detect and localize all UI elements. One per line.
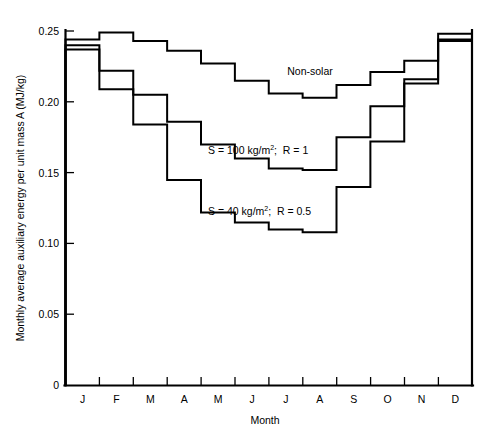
x-ticks-group <box>99 377 438 386</box>
y-tick-label-0: 0 <box>53 379 59 391</box>
x-tick-label-jan: J <box>80 393 85 405</box>
annotation-s40-tail: ; R = 0.5 <box>268 205 311 217</box>
annotation-s40-head: S = 40 kg/m <box>208 205 265 217</box>
x-tick-labels-group: J F M A M J J A S O N D <box>80 393 460 405</box>
y-axis-title: Monthly average auxiliary energy per uni… <box>14 75 26 342</box>
x-tick-label-oct: O <box>384 393 392 405</box>
y-tick-label-0.25: 0.25 <box>39 25 60 37</box>
y-tick-label-0.05: 0.05 <box>39 308 60 320</box>
y-tick-label-0.10: 0.10 <box>39 237 60 249</box>
x-tick-label-feb: F <box>113 393 119 405</box>
annotation-s100-tail: ; R = 1 <box>274 144 308 156</box>
chart-figure: 0.25 0.20 0.15 0.10 0.05 0 J F M A <box>0 0 499 437</box>
annotation-s40: S = 40 kg/m2; R = 0.5 <box>208 205 311 217</box>
y-tick-labels-group: 0.25 0.20 0.15 0.10 0.05 0 <box>39 25 60 391</box>
x-tick-label-jun: J <box>249 393 254 405</box>
annotation-s100: S = 100 kg/m2; R = 1 <box>208 144 308 156</box>
x-tick-label-aug: A <box>316 393 323 405</box>
x-tick-label-dec: D <box>452 393 460 405</box>
x-tick-label-nov: N <box>418 393 426 405</box>
x-tick-label-sep: S <box>350 393 357 405</box>
y-tick-label-0.20: 0.20 <box>39 96 60 108</box>
annotation-non-solar: Non-solar <box>287 65 333 77</box>
x-axis-title: Month <box>250 414 279 426</box>
chart-canvas: 0.25 0.20 0.15 0.10 0.05 0 J F M A <box>0 0 499 437</box>
x-tick-label-jul: J <box>283 393 288 405</box>
annotation-s100-head: S = 100 kg/m <box>208 144 270 156</box>
x-tick-label-mar: M <box>146 393 155 405</box>
y-ticks-group <box>66 31 75 314</box>
x-tick-label-apr: A <box>181 393 188 405</box>
annotations-group: Non-solar S = 100 kg/m2; R = 1 S = 40 kg… <box>208 65 333 217</box>
x-tick-label-may: M <box>214 393 223 405</box>
y-tick-label-0.15: 0.15 <box>39 167 60 179</box>
